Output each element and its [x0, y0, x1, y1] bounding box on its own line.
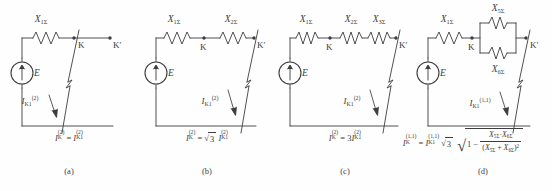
- reactance-symbol-x2: [220, 32, 246, 44]
- panel-c: X1Σ X2Σ X3Σ K K′ E IK1(2) I(2)K = 3I(2)K…: [276, 0, 414, 191]
- current-label: IK1(2): [201, 95, 219, 107]
- figure-container: X1Σ K K′ E IK1(2) I(2)K = I(2)K1 (a): [0, 0, 552, 191]
- node-dot-k: [328, 36, 331, 39]
- current-arrow-head: [231, 107, 236, 115]
- reactance-label-x1: X1Σ: [167, 14, 181, 25]
- node-dot-kprime: [252, 36, 255, 39]
- reactance-label-x1: X1Σ: [34, 14, 48, 25]
- reactance-label-x2: X2Σ: [344, 14, 358, 25]
- node-label-kprime: K′: [257, 40, 265, 50]
- source-label-e: E: [439, 68, 446, 78]
- node-dot-k: [470, 36, 473, 39]
- source-label-e: E: [33, 68, 40, 78]
- reactance-symbol-x1: [436, 32, 462, 44]
- node-label-kprime: K′: [399, 40, 407, 50]
- node-label-k: K: [468, 42, 475, 52]
- current-arrow-head: [503, 107, 508, 115]
- node-dot-k: [202, 36, 205, 39]
- reactance-label-x1: X1Σ: [440, 14, 454, 25]
- reactance-label-x6: X6Σ: [491, 64, 505, 75]
- fault-line-kink: [387, 80, 393, 88]
- reactance-label-x5: X5Σ: [491, 3, 505, 14]
- panel-label-b: (b): [138, 166, 276, 176]
- current-label: IK1(1,1): [468, 97, 490, 109]
- source-label-e: E: [301, 68, 308, 78]
- reactance-symbol-x2: [340, 32, 362, 44]
- node-dot-k: [72, 36, 75, 39]
- circuit-diagram-b: X1Σ X2Σ K K′ E IK1(2): [138, 0, 276, 135]
- reactance-label-x3: X3Σ: [372, 14, 386, 25]
- panel-label-d: (d): [414, 166, 552, 176]
- source-label-e: E: [167, 68, 174, 78]
- reactance-symbol-x3: [368, 32, 390, 44]
- reactance-label-x2: X2Σ: [224, 14, 238, 25]
- current-arrow-head: [373, 107, 378, 115]
- node-dot-kprime: [524, 36, 527, 39]
- formula-a: I(2)K = I(2)K1: [0, 132, 138, 143]
- circuit-diagram-d: X1Σ X5Σ X6Σ K K′ E IK1(1,1): [414, 0, 552, 135]
- node-label-k: K: [200, 42, 207, 52]
- fault-line-kink: [66, 80, 72, 88]
- panel-a: X1Σ K K′ E IK1(2) I(2)K = I(2)K1 (a): [0, 0, 138, 191]
- node-dot-kprime: [394, 36, 397, 39]
- node-label-kprime: K′: [530, 40, 538, 50]
- current-arrow-head: [52, 109, 57, 117]
- reactance-symbol-x1: [33, 32, 59, 44]
- node-label-k: K: [78, 40, 85, 50]
- formula-b: I(2)K = √3 I(2)K1: [138, 132, 276, 144]
- panel-d: X1Σ X5Σ X6Σ K K′ E IK1(1,1) I(1,1)K = I(…: [414, 0, 552, 191]
- current-label: IK1(2): [21, 95, 39, 107]
- circuit-diagram-a: X1Σ K K′ E IK1(2): [0, 0, 138, 135]
- reactance-label-x1: X1Σ: [299, 14, 313, 25]
- current-label: IK1(2): [343, 95, 361, 107]
- reactance-symbol-x5: [489, 17, 507, 29]
- panel-b: X1Σ X2Σ K K′ E IK1(2) I(2)K = √3 I(2)K1 …: [138, 0, 276, 191]
- formula-d: I(1,1)K = I(1,1)K1 √3 √1 − X5Σ·X6Σ(X5Σ +…: [370, 128, 552, 155]
- reactance-symbol-x1: [296, 32, 318, 44]
- circuit-diagram-c: X1Σ X2Σ X3Σ K K′ E IK1(2): [276, 0, 414, 135]
- panel-label-c: (c): [276, 166, 414, 176]
- node-dot-kprime: [108, 36, 111, 39]
- fault-line-kink: [517, 80, 523, 88]
- panel-label-a: (a): [0, 166, 138, 176]
- node-label-kprime: K′: [113, 40, 121, 50]
- reactance-symbol-x1: [164, 32, 190, 44]
- reactance-symbol-x6: [489, 47, 507, 59]
- fault-line-kink: [245, 80, 251, 88]
- node-label-k: K: [326, 42, 333, 52]
